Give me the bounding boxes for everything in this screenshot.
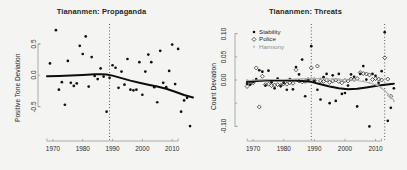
panel-threats: Tiananmen: Threats Stability Police Harm… [204, 0, 407, 170]
x-tick-label: 1970 [241, 145, 265, 152]
figure-container: Tiananmen: Propaganda -0.50.00.519701980… [0, 0, 407, 170]
x-tick-label: 2000 [130, 145, 154, 152]
x-tick-label: 1990 [101, 145, 125, 152]
x-tick-label: 1970 [41, 145, 65, 152]
x-tick-label: 2000 [333, 145, 357, 152]
y-tick-label: 0.5 [28, 32, 40, 56]
y-tick-label: 0.00 [218, 68, 230, 92]
y-tick-label: 0.05 [218, 45, 230, 69]
x-tick-label: 2010 [364, 145, 388, 152]
x-tick-label: 2010 [160, 145, 184, 152]
panel-propaganda: Tiananmen: Propaganda -0.50.00.519701980… [0, 0, 203, 170]
y-tick-label: 0.10 [218, 22, 230, 46]
x-tick-label: 1980 [272, 145, 296, 152]
y-tick-label: -0.5 [28, 95, 40, 119]
legend-label-stability: Stability [259, 28, 281, 35]
y-tick-label: -0.10 [218, 114, 230, 138]
legend-label-police: Police [259, 35, 276, 42]
y-tick-label: 0.0 [28, 63, 40, 87]
x-tick-label: 1980 [71, 145, 95, 152]
legend-label-harmony: Harmony [259, 43, 284, 50]
y-axis-label: Count Deviation [210, 63, 217, 110]
x-tick-label: 1990 [302, 145, 326, 152]
y-axis-label: Positive Tone Deviation [14, 54, 21, 122]
